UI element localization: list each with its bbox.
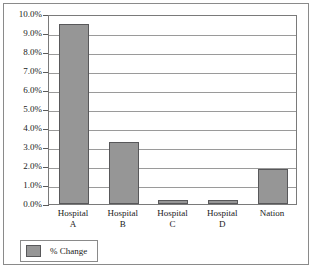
bar-slot (99, 16, 149, 204)
legend-label-percent-change: % Change (50, 246, 87, 256)
bar-series-percent-change (49, 16, 296, 204)
x-axis-category-label-line2: A (48, 219, 98, 230)
x-axis-category-label-line1: Nation (260, 208, 285, 218)
y-axis-tick-label: 1.0% (6, 181, 42, 190)
y-axis-tick-mark (43, 148, 48, 149)
legend-swatch-percent-change (26, 245, 41, 257)
plot-wrapper (48, 15, 297, 205)
x-axis-category-label-line1: Hospital (107, 208, 138, 218)
x-axis-category-label: HospitalC (148, 208, 198, 230)
bar[interactable] (109, 142, 139, 204)
y-axis-tick-label: 6.0% (6, 86, 42, 95)
y-axis-tick-labels: 10.0%9.0%8.0%7.0%6.0%5.0%4.0%3.0%2.0%1.0… (4, 4, 42, 271)
y-axis-tick-mark (43, 110, 48, 111)
y-axis-tick-mark (43, 91, 48, 92)
y-axis-tick-mark (43, 205, 48, 206)
y-axis-tick-mark (43, 15, 48, 16)
x-axis-category-label: HospitalB (98, 208, 148, 230)
x-axis-category-label-line2: C (148, 219, 198, 230)
bar-slot (198, 16, 248, 204)
y-axis-tick-mark (43, 72, 48, 73)
y-axis-tick-mark (43, 53, 48, 54)
bar[interactable] (258, 169, 288, 204)
y-axis-tick-mark (43, 167, 48, 168)
y-axis-tick-label: 9.0% (6, 29, 42, 38)
y-axis-tick-label: 2.0% (6, 162, 42, 171)
y-axis-tick-mark (43, 186, 48, 187)
bar-slot (149, 16, 199, 204)
y-axis-tick-mark (43, 34, 48, 35)
x-axis-category-label: HospitalD (197, 208, 247, 230)
y-axis-tick-label: 8.0% (6, 48, 42, 57)
chart-frame: 10.0%9.0%8.0%7.0%6.0%5.0%4.0%3.0%2.0%1.0… (3, 3, 309, 265)
x-axis-category-label-line1: Hospital (58, 208, 89, 218)
x-axis-category-label-line2: B (98, 219, 148, 230)
x-axis-category-label-line1: Hospital (207, 208, 238, 218)
y-axis-tick-label: 7.0% (6, 67, 42, 76)
bar-slot (49, 16, 99, 204)
x-axis-category-label: HospitalA (48, 208, 98, 230)
y-axis-tick-label: 5.0% (6, 105, 42, 114)
y-axis-tick-label: 3.0% (6, 143, 42, 152)
x-axis-category-labels: HospitalAHospitalBHospitalCHospitalDNati… (48, 208, 297, 234)
y-axis-tick-label: 4.0% (6, 124, 42, 133)
chart-legend: % Change (20, 240, 98, 262)
x-axis-category-label-line2: D (197, 219, 247, 230)
bar[interactable] (208, 200, 238, 204)
bar-slot (248, 16, 297, 204)
bar[interactable] (59, 24, 89, 205)
y-axis-tick-label: 0.0% (6, 200, 42, 209)
plot-area (48, 15, 297, 205)
x-axis-category-label: Nation (247, 208, 297, 219)
bar[interactable] (158, 200, 188, 204)
y-axis-tick-label: 10.0% (6, 10, 42, 19)
x-axis-category-label-line1: Hospital (157, 208, 188, 218)
y-axis-tick-mark (43, 129, 48, 130)
